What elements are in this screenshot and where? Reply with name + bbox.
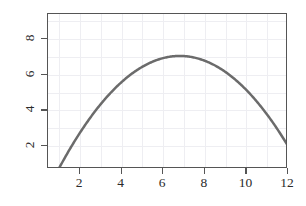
- x-axis-tick-label: 12: [272, 176, 302, 190]
- y-axis-tick: [41, 38, 47, 39]
- x-axis-tick-label: 8: [189, 176, 219, 190]
- y-axis-tick-label: 4: [23, 101, 37, 117]
- x-axis-tick-label: 6: [147, 176, 177, 190]
- y-axis-tick: [41, 145, 47, 146]
- parabola-curve: [48, 14, 287, 168]
- y-axis-tick: [41, 74, 47, 75]
- x-axis-tick-label: 4: [106, 176, 136, 190]
- y-axis-tick-label: 6: [23, 65, 37, 81]
- curve-path: [59, 56, 287, 168]
- plot-area: [47, 13, 287, 168]
- x-axis-tick: [287, 168, 288, 174]
- x-axis-tick-label: 10: [230, 176, 260, 190]
- x-axis-tick-label: 2: [64, 176, 94, 190]
- x-axis-tick: [245, 168, 246, 174]
- chart-screenshot: 24681012 8642: [0, 0, 306, 206]
- x-axis-tick: [121, 168, 122, 174]
- y-axis-tick: [41, 109, 47, 110]
- x-axis-tick: [162, 168, 163, 174]
- y-axis-tick-label: 2: [23, 137, 37, 153]
- y-axis-tick-label: 8: [23, 30, 37, 46]
- x-axis-tick: [79, 168, 80, 174]
- x-axis-tick: [204, 168, 205, 174]
